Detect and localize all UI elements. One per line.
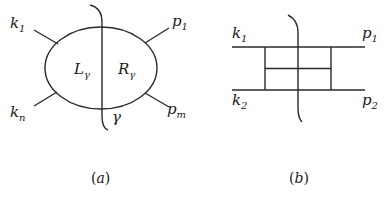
leg-k1: [34, 30, 58, 44]
cut-line-gamma: [90, 5, 108, 130]
label-gamma: γ: [112, 108, 121, 126]
label-pm: pm: [167, 100, 186, 120]
label-p2: p2: [362, 91, 378, 111]
diagram-a: k1 kn p1 pm Lγ Rγ γ (a): [10, 5, 188, 186]
figure: k1 kn p1 pm Lγ Rγ γ (a): [0, 0, 385, 199]
label-p1: p1: [362, 24, 378, 44]
label-L-gamma: Lγ: [73, 60, 90, 80]
caption-a: (a): [91, 170, 110, 186]
blob-ellipse: [45, 27, 157, 109]
label-p1: p1: [172, 12, 188, 32]
label-kn: kn: [10, 103, 26, 123]
label-k2: k2: [232, 91, 247, 111]
leg-pm: [145, 93, 169, 107]
leg-kn: [34, 92, 57, 106]
diagram-b: k1 k2 p1 p2 (b): [232, 15, 378, 186]
label-k1: k1: [10, 14, 25, 34]
label-R-gamma: Rγ: [117, 60, 135, 80]
label-k1: k1: [232, 24, 247, 44]
leg-p1: [145, 28, 169, 43]
caption-b: (b): [289, 170, 309, 186]
